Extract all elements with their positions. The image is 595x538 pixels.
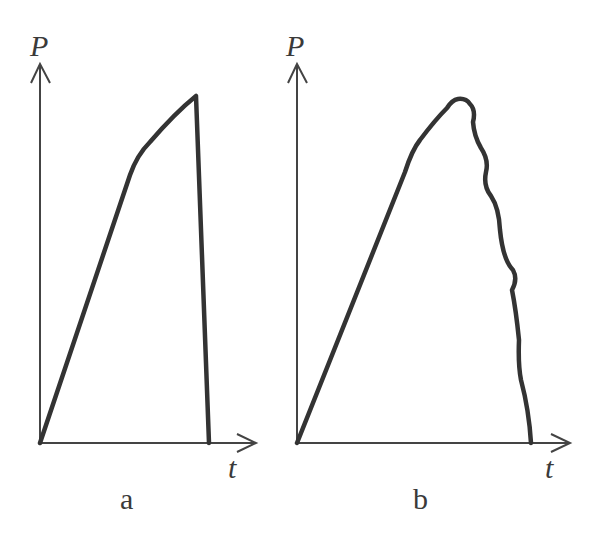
pt-curves-diagram: P t a P t b [0, 0, 595, 538]
panel-b-y-label: P [285, 29, 304, 62]
panel-a-y-label: P [29, 29, 48, 62]
panel-b-caption: b [413, 482, 428, 515]
panel-a-curve [40, 96, 209, 443]
panel-b-x-label: t [545, 451, 554, 484]
panel-a-x-label: t [228, 451, 237, 484]
panel-b-curve [297, 99, 531, 443]
panel-a: P t a [29, 29, 256, 515]
panel-a-caption: a [120, 482, 133, 515]
panel-b: P t b [285, 29, 570, 515]
